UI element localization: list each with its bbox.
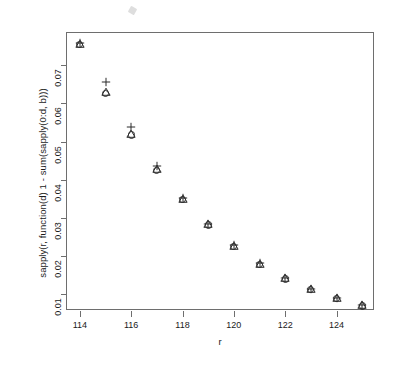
y-axis-tick-label: 0.05 <box>53 140 63 170</box>
y-axis-tick-label: 0.01 <box>53 292 63 322</box>
x-axis-tick-label: 114 <box>60 320 100 330</box>
y-axis-tick-label: 0.03 <box>53 216 63 246</box>
x-axis-tick-label: 122 <box>265 320 305 330</box>
y-axis-tick-label: 0.06 <box>53 101 63 131</box>
x-axis-tick <box>337 311 338 317</box>
x-axis-tick <box>285 311 286 317</box>
x-axis-tick-label: 124 <box>317 320 357 330</box>
y-axis-title: sapply(r, function(d) 1 - sum(sapply(0:d… <box>28 0 56 366</box>
scan-artifact <box>128 6 138 16</box>
x-axis-tick-label: 116 <box>111 320 151 330</box>
x-axis-tick <box>80 311 81 317</box>
x-axis-title: r <box>66 336 374 347</box>
x-axis-tick-label: 118 <box>163 320 203 330</box>
y-axis-tick-label: 0.02 <box>53 254 63 284</box>
y-axis-tick-label: 0.04 <box>53 178 63 208</box>
x-axis-tick <box>234 311 235 317</box>
x-axis-tick-label: 120 <box>214 320 254 330</box>
x-axis-tick <box>131 311 132 317</box>
r-scatter-plot: sapply(r, function(d) 1 - sum(sapply(0:d… <box>0 0 394 366</box>
plot-area: 0.010.020.030.040.050.060.07114116118120… <box>67 33 373 309</box>
y-axis-tick-label: 0.07 <box>53 63 63 93</box>
plot-frame: 0.010.020.030.040.050.060.07114116118120… <box>66 32 374 310</box>
x-axis-tick <box>183 311 184 317</box>
